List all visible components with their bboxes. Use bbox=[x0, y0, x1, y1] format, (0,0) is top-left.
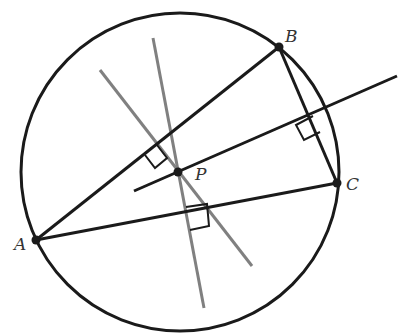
side-AC bbox=[36, 183, 337, 240]
perpendicular-bisectors bbox=[100, 38, 397, 308]
label-B: B bbox=[284, 26, 298, 46]
geometry-diagram: A B C P bbox=[0, 0, 411, 333]
right-angle-AB bbox=[145, 145, 167, 168]
label-P: P bbox=[194, 164, 207, 184]
point-C bbox=[333, 179, 342, 188]
point-A bbox=[32, 236, 41, 245]
label-C: C bbox=[346, 174, 359, 194]
point-B bbox=[275, 43, 284, 52]
point-P bbox=[174, 168, 183, 177]
point-labels: A B C P bbox=[12, 26, 359, 254]
label-A: A bbox=[12, 234, 26, 254]
triangle-sides bbox=[36, 47, 337, 240]
